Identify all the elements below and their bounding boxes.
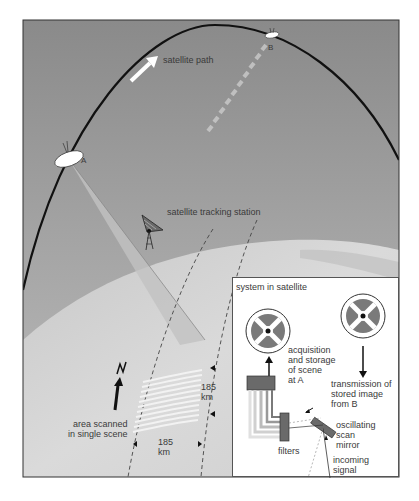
reel-acquisition-icon: [246, 309, 290, 353]
width-km-vertical-label: 185 km: [201, 382, 216, 402]
arrow-down-icon: [359, 346, 367, 378]
reel-transmission-icon: [341, 294, 385, 338]
inset-system-in-satellite: system in satellite acquisition and stor…: [232, 277, 399, 477]
transmission-label: transmission of stored image from B: [331, 379, 392, 409]
width-km-horizontal-label: 185 km: [158, 437, 173, 457]
scan-mirror: [311, 417, 336, 438]
acquisition-label: acquisition and storage of scene at A: [288, 345, 336, 385]
arrow-up-icon: [265, 356, 273, 376]
satellite-path-label: satellite path: [163, 55, 214, 65]
tracking-station-label: satellite tracking station: [167, 207, 261, 217]
filters-label: filters: [278, 446, 300, 456]
filters-block: [280, 413, 289, 441]
mirror-label: oscillating scan mirror: [336, 420, 376, 450]
area-scanned-label: area scanned in single scene: [68, 419, 128, 439]
incoming-signal-label: incoming signal: [333, 455, 369, 475]
inset-title: system in satellite: [236, 282, 307, 292]
point-a-label: A: [81, 156, 86, 166]
point-b-label: B: [268, 43, 273, 53]
signal-bands: [250, 390, 280, 437]
detector-box: [247, 376, 275, 390]
satellite-diagram: satellite path A B satellite tracking st…: [0, 0, 419, 501]
